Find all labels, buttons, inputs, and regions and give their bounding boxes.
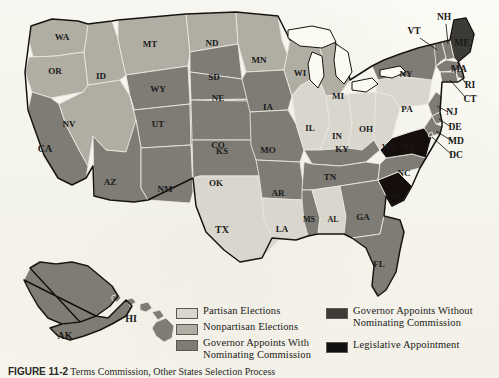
- state-label-az: AZ: [104, 177, 117, 187]
- state-label-dc: DC: [449, 150, 463, 160]
- state-label-mt: MT: [143, 39, 158, 49]
- map-legend: Partisan Elections Nonpartisan Elections…: [176, 305, 486, 355]
- state-label-nv: NV: [63, 119, 76, 129]
- state-label-de: DE: [448, 122, 461, 132]
- state-label-fl: FL: [373, 259, 385, 269]
- state-label-al: AL: [327, 215, 338, 224]
- legend-swatch-gov-with: [176, 340, 198, 351]
- legend-swatch-legislative: [326, 342, 348, 353]
- state-ga[interactable]: [340, 180, 386, 238]
- legend-label-nonpartisan: Nonpartisan Elections: [203, 321, 298, 333]
- state-label-ak: AK: [58, 330, 73, 341]
- state-label-ne: NE: [212, 93, 225, 103]
- state-label-mi: MI: [332, 91, 344, 101]
- state-label-ca: CA: [38, 143, 53, 154]
- legend-item-gov-without[interactable]: Governor Appoints Without Nominating Com…: [326, 305, 486, 328]
- legend-swatch-nonpartisan: [176, 324, 198, 335]
- state-hi-island-4[interactable]: [152, 310, 164, 320]
- state-label-tn: TN: [324, 172, 337, 182]
- state-label-va: VA: [403, 142, 415, 152]
- legend-label-gov-with: Governor Appoints With Nominating Commis…: [203, 337, 311, 360]
- legend-swatch-gov-without: [326, 308, 348, 319]
- state-label-ma: MA: [451, 64, 467, 74]
- legend-item-gov-with[interactable]: Governor Appoints With Nominating Commis…: [176, 337, 326, 360]
- state-hi-island-5[interactable]: [152, 318, 174, 342]
- state-label-wi: WI: [294, 68, 307, 78]
- state-label-nj: NJ: [446, 107, 458, 117]
- state-label-md: MD: [448, 136, 464, 146]
- state-ak[interactable]: [24, 262, 118, 324]
- legend-item-partisan[interactable]: Partisan Elections: [176, 305, 326, 319]
- state-label-oh: OH: [359, 124, 373, 134]
- state-nm[interactable]: [141, 145, 193, 203]
- state-label-tx: TX: [215, 224, 230, 235]
- state-label-wy: WY: [150, 84, 166, 94]
- state-label-nd: ND: [206, 38, 219, 48]
- legend-item-nonpartisan[interactable]: Nonpartisan Elections: [176, 321, 326, 335]
- state-label-ga: GA: [356, 212, 370, 222]
- state-label-ny: NY: [400, 69, 413, 79]
- state-label-pa: PA: [401, 104, 413, 114]
- state-label-vt: VT: [407, 26, 421, 36]
- state-label-nm: NM: [158, 184, 173, 194]
- state-label-me: ME: [454, 38, 469, 48]
- legend-item-legislative[interactable]: Legislative Appointment: [326, 339, 486, 353]
- state-label-ok: OK: [209, 178, 223, 188]
- state-label-hi: HI: [125, 313, 137, 324]
- state-label-ia: IA: [263, 102, 274, 112]
- state-label-or: OR: [48, 66, 62, 76]
- state-label-la: LA: [276, 224, 289, 234]
- state-label-mn: MN: [252, 55, 267, 65]
- state-label-sc: SC: [392, 192, 402, 201]
- legend-label-partisan: Partisan Elections: [203, 305, 280, 317]
- state-label-ky: KY: [335, 144, 349, 154]
- legend-label-legislative: Legislative Appointment: [353, 339, 459, 351]
- figure-caption-text: Terms Commission, Other States Selection…: [70, 366, 275, 377]
- state-label-ks: KS: [216, 146, 228, 156]
- state-label-il: IL: [305, 123, 315, 133]
- figure-caption: FIGURE 11-2 Terms Commission, Other Stat…: [8, 366, 494, 378]
- legend-swatch-partisan: [176, 308, 198, 319]
- state-label-ms: MS: [303, 215, 316, 224]
- state-label-ct: CT: [463, 94, 477, 104]
- legend-column-right: Governor Appoints Without Nominating Com…: [326, 305, 486, 355]
- state-hi-island-3[interactable]: [140, 302, 152, 312]
- state-label-ri: RI: [465, 80, 476, 90]
- state-label-nh: NH: [437, 12, 452, 22]
- state-label-sd: SD: [208, 72, 220, 82]
- state-label-wa: WA: [55, 32, 70, 42]
- state-label-id: ID: [96, 71, 107, 81]
- legend-column-left: Partisan Elections Nonpartisan Elections…: [176, 305, 326, 363]
- figure-caption-label: FIGURE 11-2: [8, 366, 68, 377]
- state-label-wv: WV: [382, 143, 396, 152]
- state-label-ut: UT: [152, 119, 165, 129]
- state-label-in: IN: [332, 131, 343, 141]
- lake-erie: [352, 78, 378, 92]
- state-label-ar: AR: [272, 188, 285, 198]
- state-ks[interactable]: [191, 100, 256, 140]
- legend-label-gov-without: Governor Appoints Without Nominating Com…: [353, 305, 473, 328]
- state-label-mo: MO: [260, 145, 276, 155]
- state-label-nc: NC: [398, 168, 411, 178]
